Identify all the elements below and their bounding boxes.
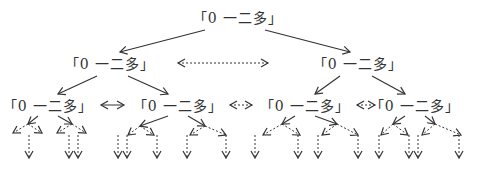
edges-level1	[120, 30, 350, 52]
down-arrows	[29, 135, 459, 158]
node-level3-2: 「0 一二多」	[133, 95, 223, 115]
node-level3-3: 「0 一二多」	[260, 95, 350, 115]
node-level3-4: 「0 一二多」	[370, 95, 460, 115]
node-level2-right: 「0 一二多」	[313, 53, 403, 73]
node-root: 「0 一二多」	[193, 7, 283, 27]
node-level2-left: 「0 一二多」	[65, 53, 155, 73]
node-level3-1: 「0 一二多」	[3, 95, 93, 115]
edges-level3	[28, 116, 435, 126]
edges-level2	[58, 76, 405, 94]
dashed-branches	[13, 124, 461, 135]
